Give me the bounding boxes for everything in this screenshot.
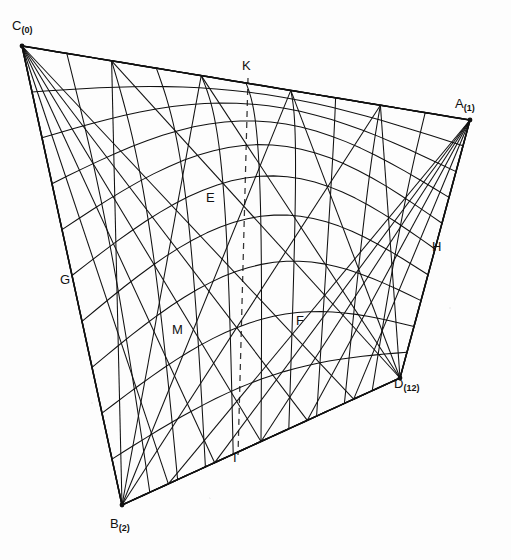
point-label-M: M [172, 322, 183, 337]
generator-from-B [122, 105, 380, 505]
generator-from-B [122, 76, 201, 505]
generator-from-C [22, 46, 261, 442]
mesh-line-v [92, 261, 421, 367]
vertex-label-main-D: D [394, 376, 403, 391]
point-label-I: I [233, 450, 237, 465]
vertex-label-sub-A: (1) [464, 103, 475, 113]
generator-from-C [22, 46, 168, 484]
mesh-line-v [62, 145, 442, 230]
mesh-line-v [42, 103, 456, 172]
point-marks-group [20, 44, 473, 508]
mesh-line-u [317, 98, 336, 416]
vertex-label-sub-D: (12) [403, 383, 419, 393]
vertex-label-A: A(1) [455, 96, 475, 113]
generator-from-D [112, 61, 400, 378]
vertex-dot-A [468, 118, 473, 123]
surface-mesh-group [22, 46, 470, 505]
vertex-dot-B [120, 503, 125, 508]
point-label-K: K [242, 58, 251, 73]
mesh-line-u [112, 61, 178, 480]
point-label-G: G [60, 272, 70, 287]
vertex-label-sub-C: (0) [21, 25, 32, 35]
corner-edge [22, 46, 122, 505]
vertex-label-main-B: B [110, 516, 119, 531]
point-label-E: E [206, 190, 215, 205]
generator-from-B [112, 61, 122, 505]
mesh-line-v [112, 352, 407, 459]
vertex-label-main-A: A [455, 96, 464, 111]
generator-from-A [168, 120, 470, 484]
dashed-edges-group [22, 46, 470, 505]
vertex-dot-C [20, 44, 25, 49]
point-label-F: F [296, 313, 304, 328]
generator-from-C [22, 46, 307, 420]
vertex-label-main-C: C [12, 18, 21, 33]
surface-boundary [22, 46, 470, 505]
hyperbolic-paraboloid-figure: C(0)A(1)B(2)D(12)EGMFHKI [0, 0, 511, 560]
mesh-line-u [344, 105, 380, 403]
point-label-H: H [432, 239, 441, 254]
generator-from-C [22, 46, 215, 463]
vertex-label-D: D(12) [394, 376, 419, 393]
generator-from-A [307, 120, 470, 420]
generator-from-D [291, 90, 400, 378]
vertex-label-B: B(2) [110, 516, 130, 533]
surface-diagram-svg: C(0)A(1)B(2)D(12)EGMFHKI [0, 0, 511, 560]
vertex-label-C: C(0) [12, 18, 32, 35]
mesh-line-v [52, 121, 449, 197]
mesh-line-v [72, 176, 435, 276]
vertex-label-sub-B: (2) [119, 523, 130, 533]
